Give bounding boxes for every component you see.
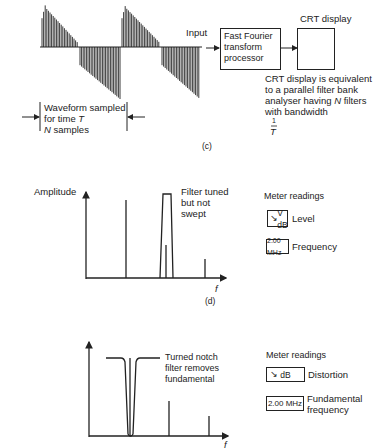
distortion-label: Distortion bbox=[308, 369, 348, 380]
sample-note-n: N bbox=[44, 124, 51, 135]
crt-note-line-2: to a parallel filter bank bbox=[265, 84, 358, 95]
crt-note-line-3a: analyser having bbox=[265, 95, 334, 106]
input-label: Input bbox=[186, 27, 207, 38]
amplitude-axis-label: Amplitude bbox=[34, 186, 76, 197]
fundamental-label-line-1: Fundamental bbox=[307, 393, 362, 404]
level-meter-value: V dB bbox=[277, 207, 287, 231]
caption-c: (c) bbox=[202, 141, 212, 152]
frequency-label: Frequency bbox=[292, 241, 337, 252]
notch-note-line-1: Turned notch bbox=[165, 352, 218, 363]
filter-note-line-2: but not bbox=[181, 197, 210, 208]
meter-title-d: Meter readings bbox=[264, 191, 324, 202]
crt-display-label: CRT display bbox=[300, 13, 351, 24]
sampled-waveform bbox=[42, 5, 199, 99]
sample-note-line-3: N samples bbox=[44, 124, 89, 135]
filter-note-line-1: Filter tuned bbox=[181, 186, 229, 197]
distortion-meter-value: dB bbox=[280, 369, 290, 381]
caption-d: (d) bbox=[205, 296, 215, 307]
sample-note-line-1: Waveform sampled bbox=[44, 102, 125, 113]
sample-note-line-2a: for time bbox=[44, 113, 78, 124]
notch-note-line-3: fundamental bbox=[165, 374, 215, 385]
notch-note-line-2: filter removes bbox=[165, 363, 219, 374]
x-axis-label-e: f bbox=[224, 439, 227, 448]
sample-note-line-2: for time T bbox=[44, 113, 84, 124]
crt-display-box bbox=[297, 28, 335, 70]
frequency-meter: 2.00 MHz bbox=[266, 239, 289, 254]
distortion-meter: ↘ dB bbox=[266, 367, 305, 382]
needle-icon: ↘ bbox=[270, 370, 278, 379]
fft-processor-box: Fast Fourier transform processor bbox=[220, 28, 281, 70]
level-label: Level bbox=[292, 213, 315, 224]
fft-line-3: processor bbox=[224, 53, 277, 64]
fft-line-1: Fast Fourier bbox=[224, 31, 277, 42]
fft-line-2: transform bbox=[224, 42, 277, 53]
fundamental-label-line-2: frequency bbox=[307, 404, 349, 415]
sample-note-line-3b: samples bbox=[51, 124, 89, 135]
meter-title-e: Meter readings bbox=[266, 350, 326, 361]
fundamental-frequency-meter: 2.00 MHz bbox=[266, 396, 304, 411]
fraction-numerator: 1 bbox=[272, 116, 276, 125]
needle-icon: ↘ bbox=[270, 214, 278, 223]
crt-note-line-3: analyser having N filters bbox=[265, 95, 366, 106]
crt-note-line-3b: filters bbox=[341, 95, 366, 106]
x-axis-label-d: f bbox=[215, 283, 218, 294]
filter-note-line-3: swept bbox=[181, 208, 206, 219]
fraction-denominator: T bbox=[270, 126, 276, 137]
sample-note-t: T bbox=[78, 113, 84, 124]
level-meter: ↘ V dB bbox=[267, 210, 288, 227]
crt-note-line-1: CRT display is equivalent bbox=[265, 73, 372, 84]
